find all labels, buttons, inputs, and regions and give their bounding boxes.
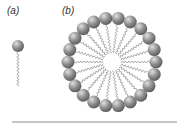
micelle — [62, 12, 163, 112]
micelle-figure — [0, 0, 177, 126]
diagram: (a) (b) — [0, 0, 177, 126]
surfactant-molecule — [12, 40, 24, 86]
